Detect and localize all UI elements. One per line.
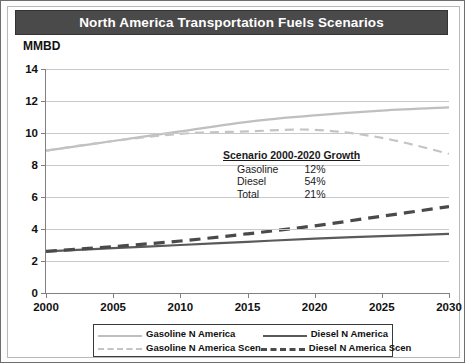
legend-swatch-solid-dark-icon: [263, 335, 307, 337]
gridline: [46, 261, 449, 262]
gridline: [46, 69, 449, 70]
legend-swatch-dashed-dark-icon: [261, 348, 305, 351]
annotation-table: Gasoline 12% Diesel 54% Total 21%: [237, 163, 325, 201]
gridline: [46, 133, 449, 134]
chart-frame: North America Transportation Fuels Scena…: [0, 0, 465, 363]
table-row: Gasoline 12%: [237, 163, 325, 176]
y-axis-tick: [41, 261, 46, 262]
x-axis-tick: [46, 293, 47, 298]
legend-swatch-solid-light-icon: [98, 335, 142, 337]
legend-item-gasoline-n-america[interactable]: Gasoline N America: [98, 328, 263, 339]
x-axis-tick: [248, 293, 249, 298]
annotation-label: Diesel: [237, 175, 278, 188]
y-axis-tick-label: 14: [25, 63, 38, 75]
y-axis-tick-label: 2: [32, 255, 38, 267]
x-axis-tick-label: 2015: [235, 301, 261, 313]
series-line-diesel-n-america: [46, 234, 449, 252]
chart-legend: Gasoline N America Diesel N America Gaso…: [93, 324, 393, 357]
y-axis-tick-label: 8: [32, 159, 38, 171]
x-axis-tick-label: 2010: [168, 301, 194, 313]
series-line-gasoline-n-america: [46, 107, 449, 150]
gridline: [46, 101, 449, 102]
y-axis-tick: [41, 69, 46, 70]
legend-item-diesel-n-america-scen[interactable]: Diesel N America Scen: [261, 342, 412, 353]
annotation-value: 12%: [278, 163, 325, 176]
x-axis-tick-label: 2020: [302, 301, 328, 313]
table-row: Total 21%: [237, 188, 325, 201]
x-axis-tick: [315, 293, 316, 298]
x-axis-tick-label: 2030: [436, 301, 462, 313]
gridline: [46, 229, 449, 230]
y-axis-tick: [41, 229, 46, 230]
x-axis-tick: [449, 293, 450, 298]
y-axis-tick-label: 0: [32, 287, 38, 299]
legend-swatch-dashed-light-icon: [98, 348, 142, 350]
x-axis-tick: [180, 293, 181, 298]
legend-label: Gasoline N America Scen: [146, 342, 261, 353]
scenario-growth-annotation: Scenario 2000-2020 Growth Gasoline 12% D…: [223, 149, 360, 200]
legend-label: Diesel N America: [311, 328, 388, 339]
y-axis-tick-label: 6: [32, 191, 38, 203]
y-axis-tick-label: 10: [25, 127, 38, 139]
y-axis-tick: [41, 197, 46, 198]
annotation-label: Gasoline: [237, 163, 278, 176]
legend-row: Gasoline N America Diesel N America: [98, 327, 388, 341]
x-axis-tick-label: 2005: [100, 301, 126, 313]
y-axis-tick: [41, 165, 46, 166]
legend-label: Diesel N America Scen: [309, 342, 412, 353]
annotation-value: 54%: [278, 175, 325, 188]
y-axis-tick-label: 4: [32, 223, 38, 235]
legend-item-diesel-n-america[interactable]: Diesel N America: [263, 328, 388, 339]
y-axis-tick: [41, 133, 46, 134]
legend-row: Gasoline N America Scen Diesel N America…: [98, 341, 388, 355]
annotation-value: 21%: [278, 188, 325, 201]
x-axis-tick-label: 2000: [33, 301, 59, 313]
x-axis-tick-label: 2025: [369, 301, 395, 313]
x-axis-tick: [382, 293, 383, 298]
table-row: Diesel 54%: [237, 175, 325, 188]
annotation-title: Scenario 2000-2020 Growth: [223, 149, 360, 162]
legend-item-gasoline-n-america-scen[interactable]: Gasoline N America Scen: [98, 342, 261, 353]
legend-label: Gasoline N America: [146, 328, 235, 339]
y-axis-tick: [41, 101, 46, 102]
annotation-label: Total: [237, 188, 278, 201]
y-axis-tick-label: 12: [25, 95, 38, 107]
x-axis-tick: [113, 293, 114, 298]
